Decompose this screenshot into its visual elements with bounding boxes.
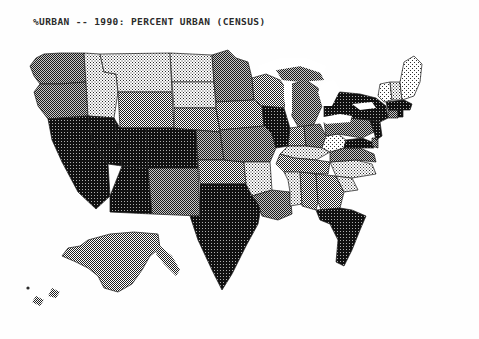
state-kansas bbox=[196, 130, 224, 160]
alaska-aleutian-islands bbox=[48, 288, 60, 298]
state-north-dakota bbox=[170, 53, 214, 82]
state-ohio bbox=[304, 124, 326, 148]
state-south-dakota bbox=[172, 82, 216, 108]
alaska-panhandle bbox=[156, 244, 180, 276]
state-florida bbox=[316, 208, 366, 266]
state-oregon bbox=[34, 82, 88, 119]
lake-michigan bbox=[284, 82, 292, 114]
state-maryland bbox=[344, 138, 374, 148]
state-nebraska bbox=[174, 108, 220, 132]
alaska-aleutian-islands-tail bbox=[32, 296, 44, 306]
state-massachusetts bbox=[386, 100, 412, 110]
state-texas bbox=[190, 184, 262, 290]
state-missouri bbox=[220, 126, 276, 162]
state-alaska bbox=[62, 232, 160, 292]
us-state-map bbox=[0, 44, 479, 339]
map-canvas bbox=[0, 44, 479, 339]
state-colorado bbox=[146, 128, 198, 168]
state-connecticut bbox=[388, 110, 398, 118]
alaska-island-dot bbox=[26, 286, 29, 289]
state-michigan bbox=[290, 80, 322, 130]
state-maine bbox=[400, 56, 422, 100]
choropleth-map-figure: %URBAN -- 1990: PERCENT URBAN (CENSUS) bbox=[0, 0, 479, 339]
state-arizona bbox=[110, 166, 152, 214]
state-rhode-island bbox=[398, 110, 403, 117]
state-north-carolina bbox=[330, 160, 376, 178]
state-alabama bbox=[300, 172, 318, 210]
state-new-mexico bbox=[148, 168, 200, 216]
state-indiana bbox=[288, 126, 306, 146]
state-minnesota bbox=[212, 50, 254, 102]
state-wyoming bbox=[118, 92, 174, 128]
state-oklahoma bbox=[198, 160, 246, 184]
state-vermont bbox=[378, 82, 392, 102]
state-iowa bbox=[216, 100, 264, 130]
page-title: %URBAN -- 1990: PERCENT URBAN (CENSUS) bbox=[33, 16, 266, 27]
state-washington bbox=[30, 53, 86, 84]
